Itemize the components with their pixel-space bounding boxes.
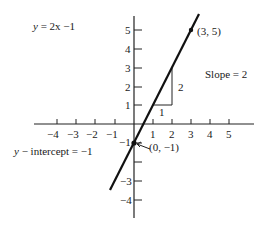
point-label-3-5: (3, 5) — [197, 26, 221, 37]
y-tick-label: 5 — [125, 25, 131, 36]
y-tick-label: 2 — [125, 82, 131, 93]
y-tick-label: −3 — [120, 176, 132, 187]
x-tick-label: 5 — [226, 129, 232, 140]
slope-label: Slope = 2 — [205, 69, 247, 80]
intercept-label: y − intercept = −1 — [14, 146, 92, 157]
x-tick-label: −4 — [47, 129, 59, 140]
x-tick-label: 4 — [207, 129, 213, 140]
x-tick-label: −2 — [86, 129, 98, 140]
y-tick-label: −4 — [120, 195, 132, 206]
point-3-5 — [189, 28, 193, 32]
equation-label: y = 2x −1 — [33, 21, 75, 32]
line-y-2x-minus-1 — [110, 14, 199, 190]
point-0-neg1 — [131, 140, 136, 145]
y-tick-label: −1 — [119, 137, 131, 148]
x-tick-label: 3 — [188, 129, 194, 140]
point-label-0-neg1: (0, −1) — [149, 142, 179, 153]
x-tick-label: 1 — [150, 129, 156, 140]
x-tick-label: 2 — [169, 129, 175, 140]
graph-canvas — [0, 0, 264, 227]
x-tick-label: −3 — [67, 129, 79, 140]
y-tick-label: 1 — [125, 100, 131, 111]
y-ticks — [134, 30, 142, 200]
y-tick-label: 4 — [125, 44, 131, 55]
rise-label: 2 — [178, 82, 184, 93]
y-tick-label: 3 — [125, 63, 131, 74]
x-tick-label: −1 — [106, 129, 118, 140]
run-label: 1 — [159, 107, 165, 118]
